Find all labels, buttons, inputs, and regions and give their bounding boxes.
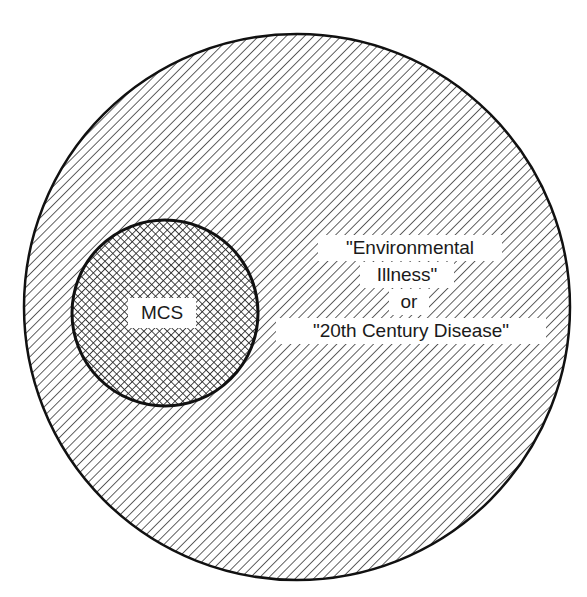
outer-set-label-line-4: "20th Century Disease" — [276, 318, 546, 344]
outer-set-label-line-1: "Environmental — [318, 235, 502, 261]
outer-set-label-line-2: Illness" — [360, 262, 454, 288]
nested-set-diagram — [0, 0, 587, 597]
inner-set-label-mcs: MCS — [128, 298, 196, 328]
outer-set-label-line-3: or — [389, 289, 429, 315]
